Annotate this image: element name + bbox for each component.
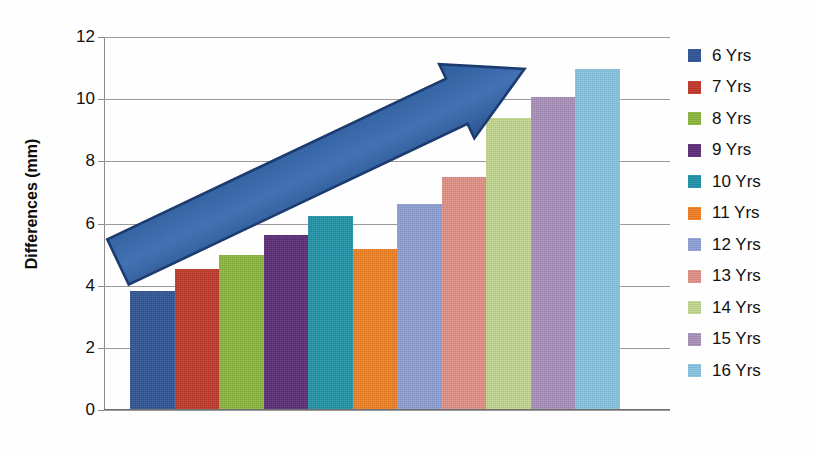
y-tick-label: 6 xyxy=(86,214,95,234)
bar[interactable] xyxy=(219,255,264,409)
legend-item-label: 10 Yrs xyxy=(712,172,761,192)
plot-area: 121086420 xyxy=(104,37,670,410)
bar-slot xyxy=(130,37,175,409)
legend-swatch xyxy=(688,144,701,157)
bar[interactable] xyxy=(308,216,353,409)
legend-item[interactable]: 16 Yrs xyxy=(688,355,810,387)
legend-item-label: 11 Yrs xyxy=(712,203,760,223)
bar[interactable] xyxy=(130,291,175,409)
legend-item[interactable]: 6 Yrs xyxy=(688,40,810,72)
legend-item-label: 14 Yrs xyxy=(712,298,761,318)
bar-slot xyxy=(219,37,264,409)
bar[interactable] xyxy=(264,235,309,409)
legend-item[interactable]: 11 Yrs xyxy=(688,198,810,230)
y-tick-label: 12 xyxy=(76,27,95,47)
legend-swatch xyxy=(688,301,701,314)
y-tick-label: 0 xyxy=(86,400,95,420)
bar-slot xyxy=(531,37,576,409)
bar[interactable] xyxy=(531,97,576,409)
bar[interactable] xyxy=(486,118,531,409)
bar-slot xyxy=(264,37,309,409)
y-tick-mark xyxy=(98,224,104,225)
legend-item-label: 12 Yrs xyxy=(712,235,761,255)
legend-swatch xyxy=(688,333,701,346)
y-axis-title: Differences (mm) xyxy=(23,94,41,314)
bar-group xyxy=(130,37,620,409)
legend-swatch xyxy=(688,49,701,62)
bar-slot xyxy=(442,37,487,409)
y-tick-mark xyxy=(98,348,104,349)
legend-item-label: 6 Yrs xyxy=(712,46,751,66)
legend-swatch xyxy=(688,81,701,94)
legend-item-label: 7 Yrs xyxy=(712,77,751,97)
legend-item-label: 16 Yrs xyxy=(712,361,761,381)
legend-swatch xyxy=(688,207,701,220)
legend-item[interactable]: 12 Yrs xyxy=(688,229,810,261)
bar-slot xyxy=(575,37,620,409)
bar-slot xyxy=(175,37,220,409)
legend-item[interactable]: 13 Yrs xyxy=(688,261,810,293)
bar-slot xyxy=(397,37,442,409)
bar-slot xyxy=(353,37,398,409)
bar[interactable] xyxy=(442,177,487,409)
y-tick-label: 8 xyxy=(86,151,95,171)
legend-item[interactable]: 7 Yrs xyxy=(688,72,810,104)
legend-item[interactable]: 15 Yrs xyxy=(688,324,810,356)
gridline xyxy=(104,410,670,411)
legend-item-label: 9 Yrs xyxy=(712,140,751,160)
y-tick-mark xyxy=(98,161,104,162)
bar[interactable] xyxy=(175,269,220,409)
legend: 6 Yrs7 Yrs8 Yrs9 Yrs10 Yrs11 Yrs12 Yrs13… xyxy=(688,40,810,387)
bar[interactable] xyxy=(397,204,442,409)
legend-swatch xyxy=(688,175,701,188)
y-tick-label: 2 xyxy=(86,338,95,358)
y-tick-mark xyxy=(98,37,104,38)
y-tick-label: 10 xyxy=(76,89,95,109)
bar[interactable] xyxy=(575,69,620,409)
legend-swatch xyxy=(688,270,701,283)
legend-item[interactable]: 10 Yrs xyxy=(688,166,810,198)
legend-item[interactable]: 8 Yrs xyxy=(688,103,810,135)
legend-swatch xyxy=(688,238,701,251)
bar-slot xyxy=(308,37,353,409)
bar[interactable] xyxy=(353,249,398,409)
legend-swatch xyxy=(688,112,701,125)
y-tick-mark xyxy=(98,410,104,411)
y-tick-mark xyxy=(98,286,104,287)
legend-swatch xyxy=(688,364,701,377)
legend-item-label: 15 Yrs xyxy=(712,329,761,349)
legend-item-label: 13 Yrs xyxy=(712,266,761,286)
legend-item[interactable]: 14 Yrs xyxy=(688,292,810,324)
legend-item-label: 8 Yrs xyxy=(712,109,751,129)
y-tick-mark xyxy=(98,99,104,100)
bar-slot xyxy=(486,37,531,409)
bar-chart: Differences (mm) 121086420 6 Yrs7 Yrs8 Y… xyxy=(0,0,816,451)
y-tick-label: 4 xyxy=(86,276,95,296)
legend-item[interactable]: 9 Yrs xyxy=(688,135,810,167)
